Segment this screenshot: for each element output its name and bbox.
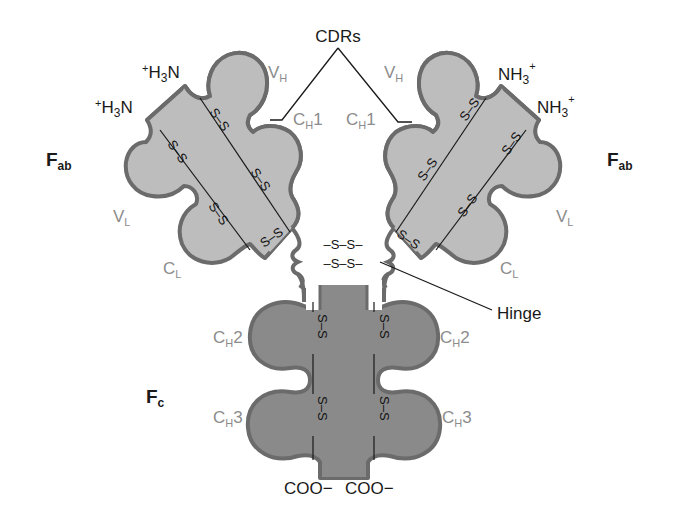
hinge-disulfide-top: –S–S– xyxy=(323,237,363,252)
n-terminus-right-light: NH3+ xyxy=(537,93,575,120)
cl-left-label: CL xyxy=(163,259,181,280)
fc-ss-ch3-left: S–S xyxy=(315,396,330,421)
ch3-left-label: CH3 xyxy=(213,408,243,429)
n-terminus-right-heavy: NH3+ xyxy=(498,60,536,87)
fc-ss-ch2-left: S–S xyxy=(315,314,330,339)
fc-label: Fc xyxy=(146,386,165,410)
cl-right-label: CL xyxy=(500,259,518,280)
ch1-right-label: CH1 xyxy=(346,110,376,131)
antibody-diagram: .fab { fill: #bdbdbd; stroke: #6b6b6b; s… xyxy=(0,0,675,525)
hinge-disulfide-bottom: –S–S– xyxy=(323,256,363,271)
fc-ss-ch2-right: S–S xyxy=(377,314,392,339)
c-terminus-left: COO− xyxy=(284,479,333,498)
hinge-label: Hinge xyxy=(497,304,541,323)
n-terminus-left-heavy: +H3N xyxy=(142,62,180,85)
fc-ss-ch3-right: S–S xyxy=(377,396,392,421)
ch2-right-label: CH2 xyxy=(440,328,470,349)
ch1-left-label: CH1 xyxy=(293,110,323,131)
ch3-right-label: CH3 xyxy=(442,408,472,429)
ch2-left-label: CH2 xyxy=(213,328,243,349)
vl-left-label: VL xyxy=(113,207,130,228)
c-terminus-right: COO− xyxy=(345,479,394,498)
cdrs-label: CDRs xyxy=(315,27,360,46)
vh-left-label: VH xyxy=(268,63,287,84)
fab-left-label: Fab xyxy=(46,149,72,173)
n-terminus-left-light: +H3N xyxy=(95,97,133,120)
vl-right-label: VL xyxy=(556,207,573,228)
vh-right-label: VH xyxy=(384,63,403,84)
fab-right-label: Fab xyxy=(607,149,633,173)
